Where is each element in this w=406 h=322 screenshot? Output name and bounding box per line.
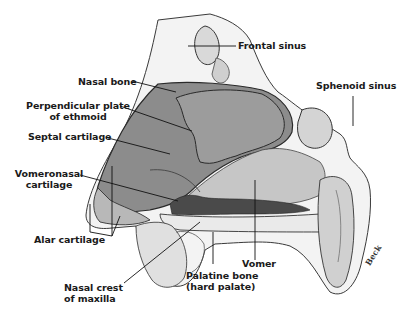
label-frontal-sinus: Frontal sinus [238,40,306,51]
label-alar-cartilage: Alar cartilage [34,234,105,245]
label-perpendicular-plate-line2: of ethmoid [26,111,130,122]
label-vomeronasal-cartilage: Vomeronasal cartilage [14,168,84,190]
label-nasal-bone: Nasal bone [78,76,137,87]
label-palatine-line1: Palatine bone [186,270,258,281]
label-vomeronasal-line1: Vomeronasal [14,168,84,179]
sphenoid-sinus-shape [298,108,333,148]
label-septal-cartilage: Septal cartilage [28,131,111,142]
label-sphenoid-sinus: Sphenoid sinus [316,80,396,91]
hard-palate-shape [160,214,331,232]
label-nasal-crest-line1: Nasal crest [64,282,123,293]
label-nasal-crest: Nasal crest of maxilla [64,282,123,304]
label-vomer: Vomer [242,258,276,269]
nasal-septum-diagram: Frontal sinus Nasal bone Sphenoid sinus … [0,0,406,322]
label-perpendicular-plate-line1: Perpendicular plate [26,100,130,111]
label-palatine-line2: (hard palate) [186,281,258,292]
label-perpendicular-plate: Perpendicular plate of ethmoid [26,100,130,122]
label-vomeronasal-line2: cartilage [14,179,84,190]
label-nasal-crest-line2: of maxilla [64,293,123,304]
label-palatine-bone: Palatine bone (hard palate) [186,270,258,292]
